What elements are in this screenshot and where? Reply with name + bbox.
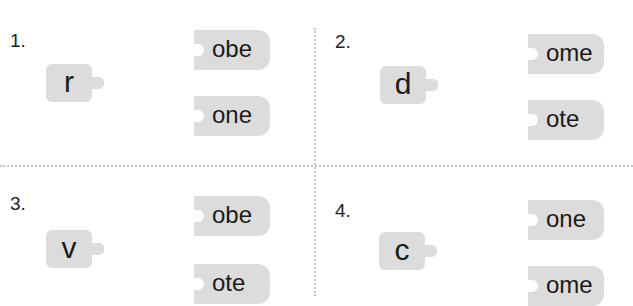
letter-piece[interactable]: c (379, 232, 425, 270)
ending-text: ote (546, 104, 579, 134)
horizontal-divider (0, 165, 633, 167)
vertical-divider (314, 28, 316, 296)
ending-piece[interactable]: obe (194, 30, 270, 70)
ending-piece[interactable]: obe (194, 196, 270, 236)
ending-text: ome (546, 38, 593, 68)
ending-text: one (212, 100, 252, 130)
ending-piece[interactable]: ote (194, 264, 270, 304)
letter-piece[interactable]: v (46, 230, 92, 268)
letter: r (46, 66, 92, 98)
ending-piece[interactable]: one (194, 96, 270, 136)
letter: d (380, 68, 426, 100)
ending-text: obe (212, 200, 252, 230)
letter-piece[interactable]: r (46, 64, 92, 102)
exercise-number: 2. (335, 31, 351, 53)
ending-piece[interactable]: ote (528, 100, 604, 140)
ending-piece[interactable]: ome (528, 266, 604, 306)
ending-piece[interactable]: one (528, 200, 604, 240)
exercise-number: 3. (10, 193, 26, 215)
ending-piece[interactable]: ome (528, 34, 604, 74)
ending-text: one (546, 204, 586, 234)
letter: c (379, 234, 425, 266)
ending-text: ote (212, 268, 245, 298)
letter: v (46, 232, 92, 264)
letter-piece[interactable]: d (380, 66, 426, 104)
exercise-number: 4. (335, 200, 351, 222)
exercise-number: 1. (10, 30, 26, 52)
ending-text: obe (212, 34, 252, 64)
ending-text: ome (546, 270, 593, 300)
